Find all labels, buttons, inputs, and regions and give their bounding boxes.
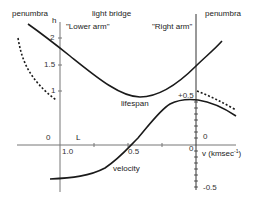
right-tick-zero: 0	[203, 133, 207, 141]
bottom-tick-zero-left: 0	[46, 134, 50, 142]
light-bridge-label: light bridge	[92, 10, 131, 18]
h-axis-label: h	[52, 17, 56, 25]
right-arm-label: "Right arm"	[152, 23, 192, 31]
v-axis-label: v (kmsec-1)	[202, 149, 241, 158]
L-label: L	[76, 134, 80, 142]
lifespan-label: lifespan	[121, 100, 149, 108]
left-tick-1-5: 1.5	[44, 61, 55, 69]
right-tick-minus-half: -0.5	[203, 184, 217, 192]
lower-arm-label: "Lower arm"	[66, 23, 109, 31]
left-tick-1: 1	[51, 87, 55, 95]
bottom-tick-zero-right: 0	[189, 145, 193, 153]
penumbra-left-label: penumbra	[12, 10, 48, 18]
right-tick-plus-half: +0.5	[178, 92, 194, 100]
velocity-label: velocity	[113, 165, 140, 173]
bottom-tick-half: 0.5	[128, 148, 139, 156]
lifespan-curve	[28, 24, 222, 97]
left-tick-2: 2	[50, 34, 54, 42]
penumbra-right-label: penumbra	[205, 10, 241, 18]
bottom-tick-one: 1.0	[62, 148, 73, 156]
